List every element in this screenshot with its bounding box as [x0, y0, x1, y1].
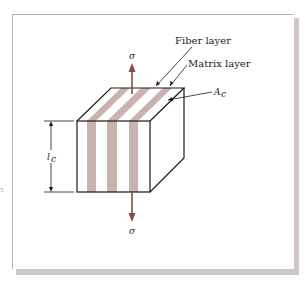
stress-arrow-top	[129, 63, 136, 94]
stress-label-top: σ	[129, 51, 136, 61]
matrix-layer-label: Matrix layer	[188, 58, 251, 69]
stress-arrow-bottom	[129, 192, 136, 222]
svg-text:l: l	[47, 152, 50, 162]
stress-label-bottom: σ	[129, 226, 136, 236]
area-label: A c	[213, 87, 226, 99]
svg-text:A: A	[213, 87, 221, 97]
svg-text:c: c	[51, 154, 56, 164]
svg-text:c: c	[221, 89, 226, 99]
composite-diagram: σ σ Fiber layer Matrix layer A c l c	[0, 0, 308, 281]
top-face-fiber-stripes	[87, 88, 172, 121]
fiber-layer-label: Fiber layer	[175, 35, 231, 46]
front-face-fiber-stripes	[87, 121, 138, 192]
length-label: l c	[47, 152, 56, 164]
